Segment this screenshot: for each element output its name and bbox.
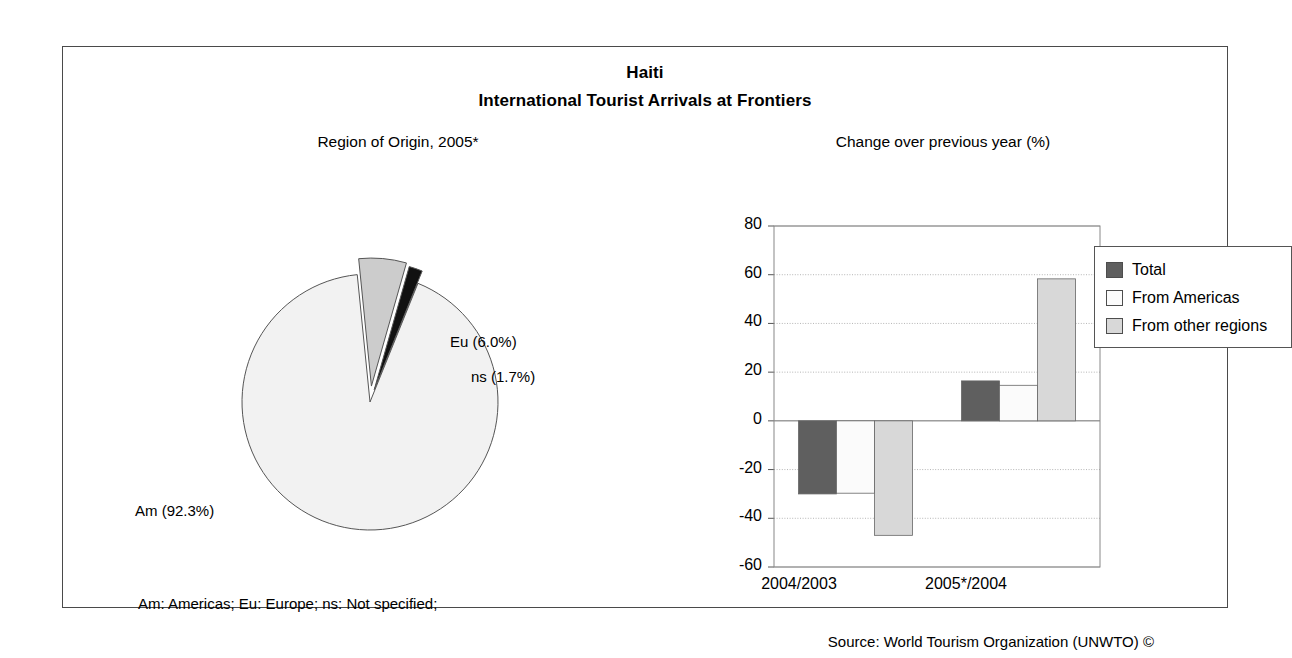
- bar-chart-x-label-0: 2004/2003: [729, 575, 869, 593]
- page-title: Haiti: [63, 63, 1227, 83]
- bar-20042003-from-other-regions: [875, 421, 913, 535]
- source-credit: Source: World Tourism Organization (UNWT…: [828, 633, 1154, 650]
- bar-chart-ytick-label: 20: [716, 361, 762, 379]
- legend-item-total: Total: [1106, 256, 1291, 284]
- figure-frame: Haiti International Tourist Arrivals at …: [62, 46, 1228, 608]
- legend-swatch-from-other-regions: [1106, 318, 1123, 334]
- bar-chart-ytick-label: 60: [716, 264, 762, 282]
- bar-chart-x-label-1: 2005*/2004: [896, 575, 1036, 593]
- pie-label-americas: Am (92.3%): [135, 502, 214, 519]
- bar-chart-title: Change over previous year (%): [723, 133, 1163, 151]
- legend-swatch-total: [1106, 262, 1123, 278]
- bar-chart-ytick-label: 0: [716, 410, 762, 428]
- legend-label-from-other-regions: From other regions: [1132, 318, 1267, 334]
- abbreviation-footnote: Am: Americas; Eu: Europe; ns: Not specif…: [138, 595, 437, 612]
- bar-chart: 806040200-20-40-60 2004/2003 2005*/2004: [703, 197, 1133, 597]
- bar-chart-ytick-label: -20: [716, 459, 762, 477]
- bar-20052004-from-americas: [1000, 385, 1038, 421]
- pie-label-europe: Eu (6.0%): [450, 333, 517, 350]
- bar-20042003-from-americas: [837, 421, 875, 493]
- bar-20052004-total: [962, 381, 1000, 421]
- bar-chart-ytick-label: -40: [716, 507, 762, 525]
- bar-chart-ytick-label: 80: [716, 215, 762, 233]
- pie-label-not-specified: ns (1.7%): [471, 368, 535, 385]
- pie-chart: Eu (6.0%) ns (1.7%) Am (92.3%): [63, 157, 663, 557]
- page-subtitle: International Tourist Arrivals at Fronti…: [63, 91, 1227, 111]
- bar-20052004-from-other-regions: [1038, 279, 1076, 421]
- bar-chart-ytick-label: 40: [716, 312, 762, 330]
- pie-chart-svg: [63, 157, 663, 557]
- legend-swatch-from-americas: [1106, 290, 1123, 306]
- bar-chart-bars: [799, 279, 1076, 535]
- legend-item-from-americas: From Americas: [1106, 284, 1291, 312]
- legend-label-total: Total: [1132, 262, 1166, 278]
- pie-chart-title: Region of Origin, 2005*: [218, 133, 578, 151]
- legend-item-from-other-regions: From other regions: [1106, 312, 1291, 340]
- bar-20042003-total: [799, 421, 837, 494]
- legend-label-from-americas: From Americas: [1132, 290, 1240, 306]
- bar-chart-svg: [703, 197, 1133, 597]
- bar-chart-ytick-label: -60: [716, 556, 762, 574]
- pie-slices: [242, 258, 498, 530]
- bar-chart-legend: Total From Americas From other regions: [1094, 246, 1292, 348]
